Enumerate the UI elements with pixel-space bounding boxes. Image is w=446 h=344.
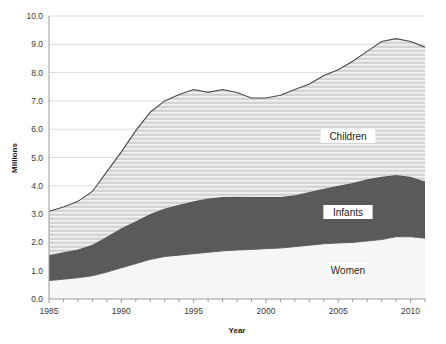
x-tick-label: 2010 bbox=[401, 306, 420, 316]
x-tick-label: 2005 bbox=[329, 306, 348, 316]
x-axis-title: Year bbox=[229, 326, 246, 335]
y-tick-label: 0.0 bbox=[31, 294, 43, 304]
y-tick-label: 5.0 bbox=[31, 153, 43, 163]
y-tick-label: 3.0 bbox=[31, 209, 43, 219]
y-tick-label: 6.0 bbox=[31, 124, 43, 134]
y-tick-label: 8.0 bbox=[31, 68, 43, 78]
x-tick-label: 1985 bbox=[40, 306, 59, 316]
y-tick-label: 4.0 bbox=[31, 181, 43, 191]
chart-canvas: 0.01.02.03.04.05.06.07.08.09.010.0 19851… bbox=[0, 0, 446, 344]
y-tick-label: 1.0 bbox=[31, 266, 43, 276]
x-tick-label: 1995 bbox=[184, 306, 203, 316]
series-label-women: Women bbox=[331, 265, 365, 276]
y-tick-label: 9.0 bbox=[31, 39, 43, 49]
stacked-area-chart: 0.01.02.03.04.05.06.07.08.09.010.0 19851… bbox=[0, 0, 446, 344]
y-tick-label: 2.0 bbox=[31, 237, 43, 247]
y-tick-label: 10.0 bbox=[26, 11, 43, 21]
series-label-infants: Infants bbox=[333, 207, 363, 218]
y-tick-label: 7.0 bbox=[31, 96, 43, 106]
x-tick-label: 1990 bbox=[112, 306, 131, 316]
series-label-children: Children bbox=[329, 131, 366, 142]
y-axis-title: Millions bbox=[10, 143, 19, 173]
x-tick-label: 2000 bbox=[256, 306, 275, 316]
